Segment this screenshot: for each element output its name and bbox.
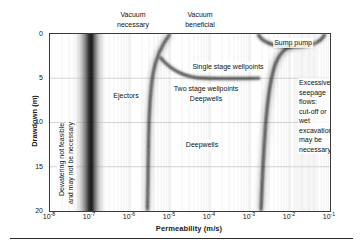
dewatering-line1: Dewatering not feasible	[58, 123, 65, 196]
y-tick-15: 15	[35, 163, 43, 170]
x-axis-title: Permeability (m/s)	[156, 224, 222, 233]
x-tick-4: 10-5	[163, 212, 175, 220]
x-tick-6-mantissa: 10	[243, 213, 251, 220]
x-tick-6-exponent: -3	[251, 211, 256, 217]
label-single-stage-wellpoints: Single stage wellpoints	[191, 62, 264, 72]
x-tick-1-mantissa: 10	[43, 213, 51, 220]
x-tick-4-exponent: -5	[171, 211, 176, 217]
x-tick-6: 10-3	[243, 212, 255, 220]
label-two-stage-wellpoints: Two stage wellpoints	[173, 84, 240, 94]
x-tick-7-mantissa: 10	[283, 213, 291, 220]
x-tick-5-exponent: -4	[211, 211, 216, 217]
x-tick-3-exponent: -6	[131, 211, 136, 217]
label-ejectors: Ejectors	[112, 91, 139, 101]
x-tick-2: 10-7	[83, 212, 95, 220]
x-tick-2-mantissa: 10	[83, 213, 91, 220]
label-sump-pump: Sump pump	[273, 38, 313, 48]
x-tick-3-mantissa: 10	[123, 213, 131, 220]
x-tick-8-exponent: -1	[331, 211, 336, 217]
x-tick-3: 10-6	[123, 212, 135, 220]
top-label-vacuum-necessary: Vacuum necessary	[117, 10, 149, 29]
y-tick-0: 0	[39, 30, 43, 37]
y-tick-5: 5	[39, 74, 43, 81]
x-tick-7-exponent: -2	[291, 211, 296, 217]
vacuum-necessary-line1: Vacuum	[117, 10, 149, 20]
top-label-vacuum-beneficial: Vacuum beneficial	[185, 10, 215, 29]
x-tick-1-exponent: -8	[51, 211, 56, 217]
dewatering-line2: and may not be necessary	[67, 122, 74, 204]
y-axis-title: Drawdown (m)	[30, 95, 39, 147]
x-tick-1: 10-8	[43, 212, 55, 220]
vacuum-necessary-line2: necessary	[117, 20, 149, 30]
x-tick-5-mantissa: 10	[203, 213, 211, 220]
x-tick-2-exponent: -7	[91, 211, 96, 217]
x-tick-8: 10-1	[323, 212, 335, 220]
plot-area: Dewatering not feasible and may not be n…	[49, 33, 331, 212]
vacuum-beneficial-line1: Vacuum	[185, 10, 215, 20]
transition-band-left	[72, 34, 108, 211]
vacuum-beneficial-line2: beneficial	[185, 20, 215, 30]
chart-canvas	[50, 34, 330, 211]
label-dewatering-not-necessary: and may not be necessary	[66, 122, 76, 204]
x-tick-5: 10-4	[203, 212, 215, 220]
figure-container: Vacuum necessary Vacuum beneficial	[0, 0, 363, 245]
x-tick-8-mantissa: 10	[323, 213, 331, 220]
caption-divider	[10, 238, 353, 239]
label-deepwells-upper: Deepwells	[189, 94, 223, 104]
x-tick-7: 10-2	[283, 212, 295, 220]
x-tick-4-mantissa: 10	[163, 213, 171, 220]
label-excessive-seepage: Excessive seepage flows: cut-off or wet …	[298, 78, 330, 154]
label-deepwells-lower: Deepwells	[185, 140, 219, 150]
